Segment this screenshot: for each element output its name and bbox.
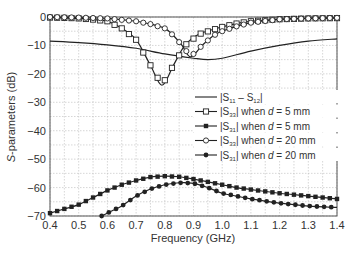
s-parameters-chart: 0.40.50.60.70.80.91.01.11.21.31.40−10−20… [0, 0, 355, 257]
x-tick-label: 1.1 [243, 219, 258, 231]
legend: |S11 – S12||S33| when d = 5 mm|S31| when… [193, 90, 343, 162]
y-tick-label: −10 [27, 39, 46, 51]
y-tick-label: −20 [27, 68, 46, 80]
legend-item-0: |S11 – S12| [193, 90, 343, 104]
y-tick-label: −60 [27, 182, 46, 194]
series-4 [99, 180, 337, 218]
y-tick-label: −40 [27, 125, 46, 137]
x-tick-label: 0.8 [157, 219, 172, 231]
x-tick-label: 0.6 [100, 219, 115, 231]
y-tick-label: −70 [27, 210, 46, 222]
x-tick-label: 0.7 [128, 219, 143, 231]
legend-item-4: |S31| when d = 20 mm [193, 148, 343, 162]
x-axis-label: Frequency (GHz) [151, 232, 235, 244]
legend-item-1: |S33| when d = 5 mm [193, 105, 343, 119]
y-tick-label: 0 [40, 11, 46, 23]
x-tick-label: 0.9 [186, 219, 201, 231]
y-tick-label: −30 [27, 96, 46, 108]
x-tick-label: 1.3 [301, 219, 316, 231]
x-tick-label: 1.2 [272, 219, 287, 231]
x-tick-label: 1.4 [329, 219, 344, 231]
y-axis-label: S-parameters (dB) [5, 72, 17, 162]
legend-item-3: |S33| when d = 20 mm [193, 134, 343, 148]
x-tick-label: 1.0 [215, 219, 230, 231]
legend-item-2: |S31| when d = 5 mm [193, 119, 343, 133]
x-tick-label: 0.5 [71, 219, 86, 231]
y-tick-label: −50 [27, 153, 46, 165]
